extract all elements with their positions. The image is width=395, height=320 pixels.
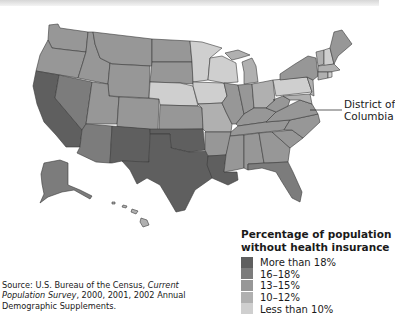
- legend-swatch: [241, 268, 253, 280]
- legend-title-line1: Percentage of population: [241, 228, 391, 241]
- legend-label: Less than 10%: [260, 304, 333, 315]
- legend-item-less-than-10: Less than 10%: [241, 303, 391, 315]
- dc-callout-line1: District of: [344, 98, 395, 110]
- legend-label: More than 18%: [260, 257, 336, 268]
- legend-item-13-15: 13–15%: [241, 280, 391, 292]
- legend-title-line2: without health insurance: [241, 241, 391, 254]
- state-maine: [330, 30, 352, 64]
- state-hawaii-big: [140, 218, 149, 227]
- legend-swatch: [241, 292, 253, 304]
- legend-item-16-18: 16–18%: [241, 269, 391, 281]
- legend-swatch: [241, 280, 253, 292]
- state-michigan: [242, 58, 258, 84]
- state-washington: [48, 24, 88, 52]
- state-rhode-island: [328, 72, 332, 78]
- state-pennsylvania: [273, 77, 312, 96]
- state-colorado: [117, 97, 159, 130]
- state-michigan-upper: [225, 50, 250, 60]
- legend-item-10-12: 10–12%: [241, 292, 391, 304]
- state-alaska: [40, 160, 92, 203]
- legend-item-more-than-18: More than 18%: [241, 257, 391, 269]
- state-north-dakota: [152, 39, 192, 62]
- legend: Percentage of population without health …: [241, 228, 391, 315]
- state-south-dakota: [150, 62, 193, 84]
- state-iowa: [193, 82, 227, 104]
- state-kansas: [159, 105, 203, 130]
- legend-label: 13–15%: [260, 280, 300, 291]
- state-hawaii-kauai: [112, 202, 115, 204]
- dc-callout-label: District of Columbia: [344, 98, 395, 122]
- state-new-york: [280, 56, 318, 80]
- state-new-mexico: [110, 126, 150, 163]
- legend-label: 16–18%: [260, 269, 300, 280]
- legend-swatch: [241, 303, 253, 315]
- state-hawaii-maui: [131, 209, 138, 214]
- state-vermont: [316, 50, 324, 66]
- state-arizona: [77, 124, 112, 163]
- state-wisconsin: [208, 56, 238, 83]
- legend-title: Percentage of population without health …: [241, 228, 391, 254]
- legend-swatch: [241, 257, 253, 269]
- dc-callout-line2: Columbia: [344, 110, 395, 122]
- legend-label: 10–12%: [260, 292, 300, 303]
- state-florida: [248, 162, 302, 202]
- state-wyoming: [108, 63, 150, 98]
- source-prefix: Source: U.S. Bureau of the Census,: [2, 280, 148, 290]
- state-connecticut: [318, 72, 328, 80]
- state-hawaii-oahu: [122, 205, 127, 208]
- source-note: Source: U.S. Bureau of the Census, Curre…: [2, 280, 202, 311]
